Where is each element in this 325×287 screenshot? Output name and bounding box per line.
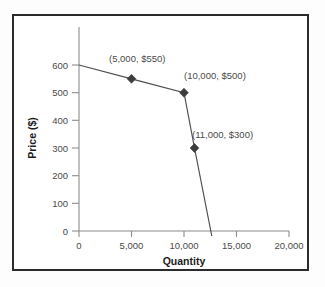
y-tick-label-400: 400 (52, 115, 68, 126)
x-tick-label-0: 0 (76, 240, 81, 251)
demand-curve-line (79, 65, 212, 236)
y-axis-title: Price ($) (26, 117, 38, 158)
annotation-point-2: (10,000, $500) (184, 70, 246, 81)
x-tick-label-20000: 20,000 (274, 240, 303, 251)
chart-figure-frame: 600 500 400 300 200 100 0 0 5,000 10,000… (12, 14, 309, 271)
y-tick-label-500: 500 (52, 87, 68, 98)
x-tick-label-5000: 5,000 (120, 240, 144, 251)
annotation-point-1: (5,000, $550) (109, 53, 166, 64)
y-tick-label-100: 100 (52, 198, 68, 209)
y-tick-label-200: 200 (52, 170, 68, 181)
x-axis-title: Quantity (163, 255, 206, 267)
x-tick-label-10000: 10,000 (169, 240, 198, 251)
data-point-marker-5000[interactable] (127, 74, 136, 83)
data-point-marker-11000[interactable] (190, 144, 199, 153)
y-tick-label-600: 600 (52, 60, 68, 71)
x-tick-label-15000: 15,000 (222, 240, 251, 251)
data-point-marker-10000[interactable] (180, 88, 189, 97)
y-tick-label-0: 0 (63, 226, 68, 237)
y-tick-label-300: 300 (52, 143, 68, 154)
annotation-point-3: (11,000, $300) (192, 129, 253, 140)
demand-curve-chart: 600 500 400 300 200 100 0 0 5,000 10,000… (14, 16, 307, 269)
